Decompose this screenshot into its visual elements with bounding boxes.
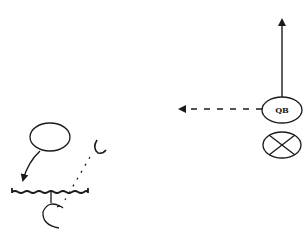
play-diagram: QB [0, 0, 308, 244]
qb-player: QB [262, 97, 302, 123]
block-line-squiggle [12, 188, 88, 203]
defender-c-tick [57, 206, 63, 208]
receiver-block-route-arrow [23, 151, 40, 180]
defender-hook-icon [95, 140, 106, 153]
center-crossed-ellipse-icon [263, 132, 301, 158]
qb-label: QB [275, 105, 289, 115]
defender-c-icon [43, 204, 60, 228]
receiver-player [30, 123, 70, 151]
